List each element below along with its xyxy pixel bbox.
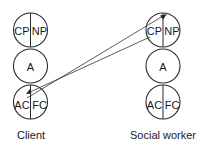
client-np-label: NP — [32, 25, 47, 37]
client-a-label: A — [27, 61, 35, 73]
transaction-arrow-client-to-worker — [27, 14, 167, 98]
social-worker-caption: Social worker — [130, 129, 196, 141]
client-caption: Client — [17, 129, 45, 141]
client-parent-circle: CP NP — [14, 13, 48, 47]
social-worker-a-label: A — [159, 61, 167, 73]
transaction-diagram: CP NP A AC FC Client CP NP A AC — [0, 0, 201, 149]
social-worker-child-circle: AC FC — [146, 85, 180, 119]
client-child-circle: AC FC — [14, 85, 48, 119]
client-ac-label: AC — [14, 99, 29, 111]
social-worker-ego-stack: CP NP A AC FC Social worker — [130, 13, 196, 141]
social-worker-cp-label: CP — [147, 25, 162, 37]
client-cp-label: CP — [14, 25, 29, 37]
social-worker-ac-label: AC — [147, 99, 162, 111]
client-ego-stack: CP NP A AC FC Client — [14, 13, 48, 141]
social-worker-fc-label: FC — [165, 99, 180, 111]
social-worker-np-label: NP — [164, 25, 179, 37]
client-adult-circle: A — [14, 49, 48, 83]
client-fc-label: FC — [32, 99, 47, 111]
social-worker-adult-circle: A — [146, 49, 180, 83]
